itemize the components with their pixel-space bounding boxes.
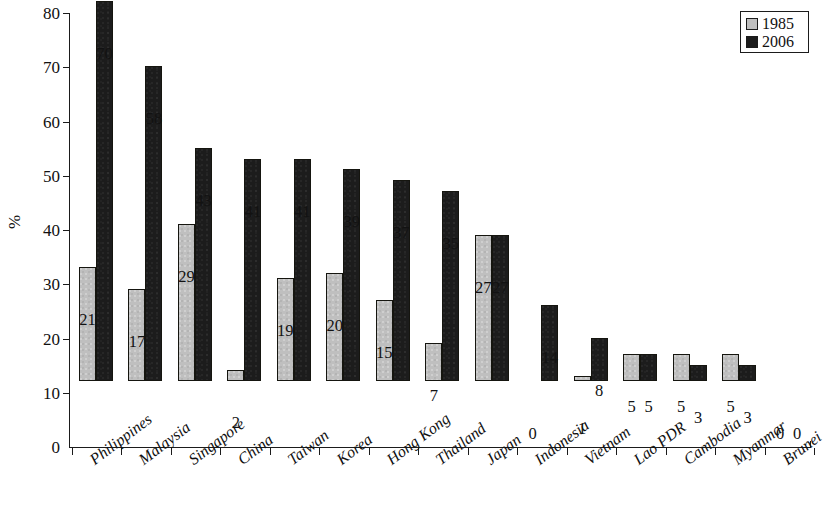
bar-2006 — [294, 159, 311, 381]
x-axis-tick-mark — [666, 448, 667, 455]
bar-2006 — [690, 365, 707, 381]
legend-entry-1985: 1985 — [746, 15, 804, 33]
x-axis-tick-mark — [468, 448, 469, 455]
bar-2006 — [591, 338, 608, 381]
x-axis-tick-mark — [72, 448, 73, 455]
bar-value-label: 14 — [534, 350, 566, 367]
legend-entry-2006: 2006 — [746, 33, 804, 51]
bar-value-label: 39 — [336, 214, 368, 231]
bar-1985 — [574, 376, 591, 381]
bar-value-label: 35 — [435, 236, 467, 253]
bar-2006 — [492, 235, 509, 381]
chart-legend: 1985 2006 — [740, 11, 809, 53]
bar-1985 — [425, 343, 442, 381]
bar-2006 — [442, 191, 459, 381]
bar-value-label: 3 — [682, 410, 714, 427]
bar-1985 — [376, 300, 393, 381]
x-axis-tick-mark — [171, 448, 172, 455]
plot-area: 2170175829432411941203915377352727014185… — [0, 0, 820, 460]
bar-value-label: 7 — [418, 388, 450, 405]
bar-2006 — [640, 354, 657, 381]
bar-1985 — [178, 224, 195, 381]
legend-label-1985: 1985 — [762, 16, 794, 32]
legend-swatch-1985-icon — [746, 18, 758, 30]
bar-value-label: 41 — [286, 204, 318, 221]
bar-value-label: 58 — [138, 111, 170, 128]
legend-swatch-2006-icon — [746, 36, 758, 48]
bar-value-label: 27 — [484, 280, 516, 297]
bar-2006 — [244, 159, 261, 381]
bar-2006 — [541, 305, 558, 381]
x-axis-tick-mark — [567, 448, 568, 455]
bar-1985 — [673, 354, 690, 381]
x-axis-tick-mark — [369, 448, 370, 455]
bar-2006 — [195, 148, 212, 381]
bar-2006 — [739, 365, 756, 381]
x-axis-tick-mark — [270, 448, 271, 455]
legend-label-2006: 2006 — [762, 34, 794, 50]
bar-2006 — [343, 169, 360, 381]
bar-1985 — [227, 370, 244, 381]
bar-value-label: 37 — [385, 225, 417, 242]
x-axis-tick-mark — [765, 448, 766, 455]
bar-value-label: 43 — [187, 193, 219, 210]
bar-1985 — [623, 354, 640, 381]
bar-value-label: 0 — [517, 426, 549, 443]
bar-1985 — [475, 235, 492, 381]
bar-value-label: 8 — [583, 383, 615, 400]
bar-2006 — [393, 180, 410, 381]
bar-1985 — [722, 354, 739, 381]
bar-value-label: 5 — [633, 399, 665, 416]
bar-value-label: 70 — [89, 46, 121, 63]
bar-value-label: 41 — [237, 204, 269, 221]
